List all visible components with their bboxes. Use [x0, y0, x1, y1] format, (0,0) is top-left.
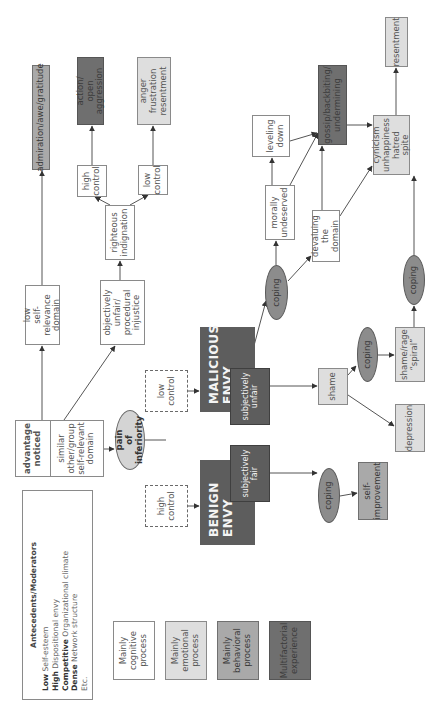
cynicism-node: cynicism unhappiness hatred spite: [373, 115, 410, 175]
legend-behavioral: Mainly behavioral process: [217, 621, 259, 680]
high-control-dashed-node: high control: [145, 485, 188, 527]
admiration-node: admiration/awe/gratitude: [32, 65, 50, 170]
depression-node: depression: [395, 404, 425, 452]
self-improvement-node: self- improvement: [358, 462, 388, 520]
pain-of-inferiority-ellipse: pain of inferiority: [115, 410, 145, 470]
antecedents-title: Antecedents/Moderators: [29, 499, 39, 691]
anger-frustration-node: anger frustration resentment: [137, 57, 171, 125]
shame-node: shame: [318, 368, 348, 405]
objectively-unfair-node: objectively unfair/ procedural injustice: [100, 280, 145, 345]
low-self-relevance-node: low self-relevance domain: [25, 285, 60, 345]
advantage-noticed-label: advantage noticed: [16, 421, 51, 476]
antecedent-item: Competitive Organizational climate: [61, 499, 71, 691]
low-control-dashed-node: low control: [145, 370, 188, 412]
resentment-node: resentment: [385, 17, 408, 67]
legend-emotional: Mainly emotional process: [165, 621, 207, 680]
morally-undeserved-node: morally undeserved: [265, 185, 295, 240]
righteous-indignation-node: righteous indignation: [105, 205, 135, 260]
coping-shame-ellipse: coping: [357, 327, 378, 382]
action-aggression-node: action/ open aggression: [77, 57, 104, 125]
antecedent-item: Low Self-esteem: [41, 499, 51, 691]
shame-rage-spiral-node: shame/rage “spiral”: [395, 327, 425, 382]
leveling-down-node: leveling down: [252, 115, 290, 157]
high-control-node: high control: [77, 165, 107, 197]
coping-benign-ellipse: coping: [318, 468, 340, 523]
antecedent-item: Etc.: [80, 499, 90, 691]
gossip-node: gossip/backbiting/ undermining: [318, 65, 347, 145]
envy-process-diagram: Antecedents/Moderators Low Self-esteem H…: [0, 0, 435, 711]
antecedent-item: Dense Network structure: [70, 499, 80, 691]
subjectively-fair-box: subjectively fair: [230, 445, 270, 502]
advantage-noticed-box: advantage noticed similar other/group se…: [15, 420, 104, 477]
low-control-node: low control: [138, 165, 168, 195]
subjectively-unfair-box: subjectively unfair: [230, 368, 270, 425]
similar-other-label: similar other/group self-relevant domain: [50, 421, 103, 476]
antecedents-moderators-box: Antecedents/Moderators Low Self-esteem H…: [22, 490, 93, 700]
legend-multifactorial: Multifactorial experience: [269, 621, 311, 680]
legend-cognitive: Mainly cognitive process: [113, 621, 155, 680]
devaluing-domain-node: devaluing the domain: [312, 210, 340, 262]
coping-malicious-ellipse: coping: [265, 265, 288, 320]
coping-spiral-ellipse: coping: [403, 255, 425, 305]
antecedent-item: High Dispositional envy: [51, 499, 61, 691]
